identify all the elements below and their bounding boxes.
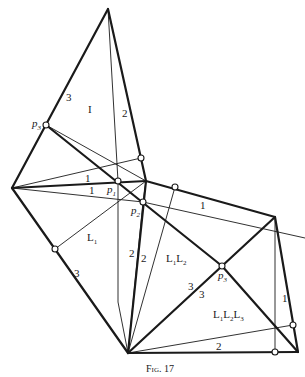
svg-text:3: 3 — [74, 267, 80, 279]
figure-caption: Fig. 17 — [146, 363, 174, 374]
label-p3-left: p3 — [31, 117, 42, 132]
edge-D-E — [146, 181, 275, 217]
svg-text:2: 2 — [129, 247, 135, 259]
figure-17-diagram: p3 p1 p2 p3 I L1 L1L2 L1L2L3 3 2 1 1 1 3… — [0, 0, 305, 377]
point-on-AD — [138, 155, 144, 161]
svg-text:3: 3 — [199, 288, 205, 300]
point-p2 — [140, 199, 146, 205]
label-p1: p1 — [106, 183, 116, 198]
edge-A-B — [12, 9, 108, 188]
label-p2: p2 — [130, 204, 141, 219]
label-region-L1L2: L1L2 — [166, 252, 187, 267]
svg-text:1: 1 — [85, 172, 91, 184]
point-on-EF — [290, 322, 296, 328]
edge-E-F — [275, 217, 298, 352]
points — [43, 122, 296, 355]
svg-text:3: 3 — [66, 91, 72, 103]
thin-lines — [12, 9, 305, 353]
point-on-BC — [52, 246, 58, 252]
point-on-CF — [272, 349, 278, 355]
svg-text:1: 1 — [89, 184, 95, 196]
label-region-L1L2L3: L1L2L3 — [213, 308, 244, 323]
point-p3-left — [43, 122, 49, 128]
svg-text:1: 1 — [200, 199, 206, 211]
point-on-DE — [172, 184, 178, 190]
label-region-L1: L1 — [87, 231, 98, 246]
svg-text:2: 2 — [122, 107, 128, 119]
svg-text:1: 1 — [282, 292, 288, 304]
edge-B-C — [12, 188, 128, 353]
label-region-I: I — [88, 103, 92, 115]
svg-text:3: 3 — [188, 280, 194, 292]
edge-B-D — [12, 181, 146, 188]
svg-text:2: 2 — [141, 252, 147, 264]
edge-C-E — [128, 217, 275, 353]
svg-text:2: 2 — [216, 340, 222, 352]
point-p1 — [115, 178, 121, 184]
thick-edges — [12, 9, 298, 353]
